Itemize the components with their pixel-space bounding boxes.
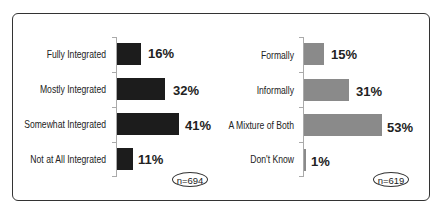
category-label: Formally [171,49,294,61]
value-label: 53% [387,121,413,135]
value-label: 1% [311,155,330,169]
category-label: Informally [171,84,294,96]
tick [112,72,117,73]
tick [299,176,304,177]
bar [117,113,179,135]
bar [304,79,349,101]
sample-size-badge: n=694 [172,172,208,187]
tick [112,176,117,177]
bar [304,43,324,65]
bar [304,114,382,136]
category-label: Mostly Integrated [0,83,106,95]
tick [112,107,117,108]
category-label: Not at All Integrated [0,153,106,165]
category-label: Don't Know [171,153,294,165]
chart-frame [12,13,430,201]
tick [112,37,117,38]
category-label: A Mixture of Both [171,119,294,131]
category-label: Somewhat Integrated [0,118,106,130]
bar [117,43,141,65]
bar [304,149,306,171]
bar [117,148,133,170]
tick [299,72,304,73]
bar [117,78,165,100]
value-label: 31% [356,85,382,99]
tick [299,107,304,108]
value-label: 11% [138,153,163,167]
value-label: 15% [331,48,357,62]
category-label: Fully Integrated [0,48,106,60]
sample-size-badge: n=619 [373,172,409,187]
tick [299,142,304,143]
tick [299,37,304,38]
tick [112,142,117,143]
